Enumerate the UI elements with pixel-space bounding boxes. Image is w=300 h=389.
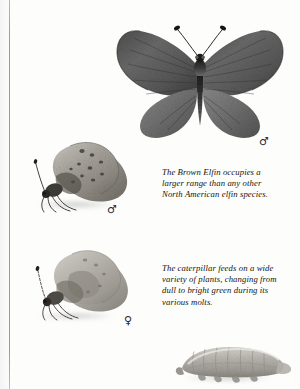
butterfly-lateral-upper-illustration xyxy=(30,124,142,216)
butterfly-lateral-upper-specimen xyxy=(30,124,142,216)
caption-line: The Brown Elfin occupies a xyxy=(162,167,286,178)
butterfly-lateral-lower-specimen xyxy=(30,234,142,326)
sex-symbol-lateral-lower-female: ♀ xyxy=(124,315,132,326)
caption-line: larger range than any other xyxy=(162,178,286,189)
sex-symbol-lateral-upper-male: ♂ xyxy=(107,204,117,215)
sex-symbol-dorsal-male: ♂ xyxy=(259,136,269,147)
field-guide-page: ♂ xyxy=(0,0,300,389)
butterfly-dorsal-specimen xyxy=(108,14,292,140)
page-gutter-rule xyxy=(9,0,10,389)
butterfly-dorsal-illustration xyxy=(108,14,292,140)
butterfly-lateral-lower-illustration xyxy=(30,234,142,326)
caption-line: various molts. xyxy=(162,297,288,308)
caterpillar-illustration xyxy=(172,336,296,388)
caption-line: dull to bright green during its xyxy=(162,285,288,296)
page-gutter-shade xyxy=(0,0,9,389)
caption-line: variety of plants, changing from xyxy=(162,274,288,285)
caption-line: The caterpillar feeds on a wide xyxy=(162,263,288,274)
caption-line: North American elfin species. xyxy=(162,189,286,200)
caption-brown-elfin-range: The Brown Elfin occupies a larger range … xyxy=(162,167,286,201)
caterpillar-specimen xyxy=(172,336,296,388)
caption-caterpillar-diet: The caterpillar feeds on a wide variety … xyxy=(162,263,288,308)
